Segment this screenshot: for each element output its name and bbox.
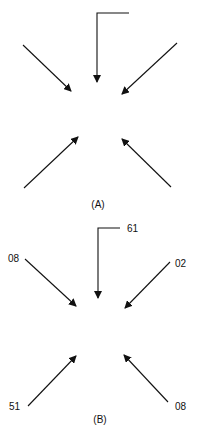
arrow-top-right <box>122 43 177 94</box>
number-bottom-left: 51 <box>9 401 21 412</box>
number-bottom-right: 08 <box>175 401 187 412</box>
arrow-top <box>98 228 120 298</box>
arrow-top-right <box>125 262 170 308</box>
panel-label-b: (B) <box>93 414 106 425</box>
arrow-bottom-right <box>124 355 168 402</box>
arrow-bottom-left <box>28 356 76 406</box>
arrow-bottom-left <box>24 137 78 188</box>
arrow-top-left <box>23 45 71 91</box>
number-top-right: 02 <box>175 258 187 269</box>
arrow-bottom-right <box>122 139 171 187</box>
number-top: 61 <box>127 223 139 234</box>
arrow-top-left <box>25 259 76 306</box>
number-top-left: 08 <box>8 253 20 264</box>
panel-a: (A) <box>23 13 177 210</box>
panel-b: 61 08 02 51 08 (B) <box>8 223 187 425</box>
arrow-top <box>97 13 129 82</box>
panel-label-a: (A) <box>91 199 104 210</box>
arrow-diagram: (A) 61 08 02 51 08 (B) <box>0 0 200 431</box>
